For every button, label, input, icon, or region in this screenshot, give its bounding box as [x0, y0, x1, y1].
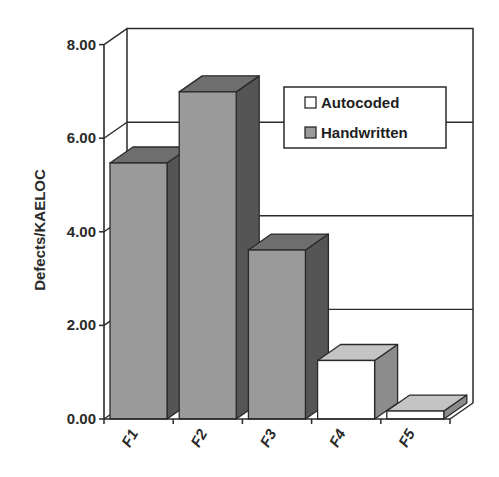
- bar-front: [318, 361, 375, 420]
- bar-f3: [248, 234, 328, 419]
- side-gridline: [104, 122, 127, 138]
- legend: Autocoded Handwritten: [284, 87, 446, 148]
- y-axis-ticks: 0.002.004.006.008.00: [67, 36, 104, 427]
- x-axis-ticks: F1F2F3F4F5: [104, 419, 450, 450]
- bar-f2: [179, 76, 259, 419]
- x-category-label: F5: [395, 425, 419, 449]
- bar-f1: [110, 147, 190, 419]
- y-tick-label: 4.00: [67, 223, 96, 240]
- side-gridline: [104, 29, 127, 45]
- legend-swatch-autocoded: [305, 97, 316, 108]
- x-category-label: F2: [187, 425, 211, 449]
- y-tick-label: 0.00: [67, 410, 96, 427]
- legend-label-handwritten: Handwritten: [321, 124, 408, 141]
- y-tick-label: 6.00: [67, 129, 96, 146]
- y-tick-label: 8.00: [67, 36, 96, 53]
- x-category-label: F3: [256, 425, 280, 449]
- legend-swatch-handwritten: [305, 127, 316, 138]
- bar-front: [248, 250, 305, 419]
- x-category-label: F1: [118, 426, 141, 450]
- bar-chart: 0.002.004.006.008.00 F1F2F3F4F5 Defects/…: [0, 0, 499, 477]
- bar-front: [110, 163, 167, 419]
- legend-label-autocoded: Autocoded: [321, 94, 399, 111]
- y-axis-title: Defects/KAELOC: [31, 169, 48, 291]
- bar-front: [387, 411, 444, 419]
- y-tick-label: 2.00: [67, 316, 96, 333]
- bar-f4: [318, 345, 398, 420]
- x-category-label: F4: [325, 425, 349, 449]
- bar-front: [179, 92, 236, 419]
